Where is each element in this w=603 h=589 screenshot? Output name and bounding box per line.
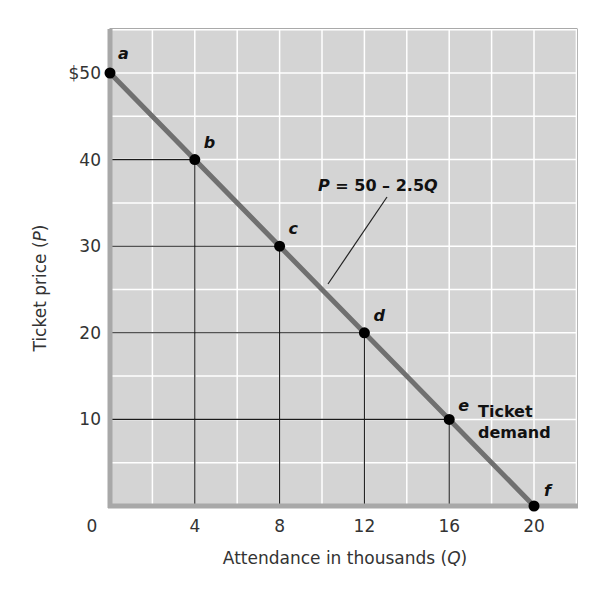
y-tick-label: 20 (79, 323, 101, 343)
point-a (105, 68, 116, 79)
point-label-c: c (289, 219, 299, 238)
x-tick-label: 16 (438, 516, 460, 536)
x-axis-label: Attendance in thousands (Q) (223, 548, 467, 568)
y-tick-label: $50 (69, 63, 101, 83)
point-e (444, 414, 455, 425)
point-label-a: a (118, 44, 129, 63)
y-tick-label: 30 (79, 236, 101, 256)
y-tick-label: 40 (79, 150, 101, 170)
y-tick-label: 10 (79, 409, 101, 429)
point-f (529, 501, 540, 512)
demand-chart: abcdef 04812162010203040$50 P = 50 – 2.5… (0, 0, 603, 589)
point-label-d: d (373, 306, 385, 325)
x-tick-label: 8 (274, 516, 285, 536)
x-tick-label: 12 (354, 516, 376, 536)
x-tick-label: 4 (189, 516, 200, 536)
y-axis-label: Ticket price (P) (30, 225, 50, 353)
point-label-b: b (204, 133, 215, 152)
x-tick-label: 20 (523, 516, 545, 536)
point-b (189, 154, 200, 165)
point-c (274, 241, 285, 252)
equation-label: P = 50 – 2.5Q (318, 176, 438, 195)
x-tick-label: 0 (87, 516, 98, 536)
point-d (359, 327, 370, 338)
point-label-e: e (458, 396, 469, 415)
